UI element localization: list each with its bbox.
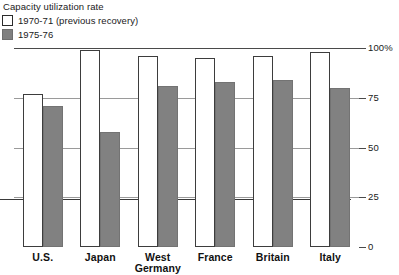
bar-curr-italy <box>330 88 350 247</box>
gridline-50 <box>14 148 359 149</box>
y-tick-label-0: 0 <box>368 242 373 252</box>
plot-area <box>14 48 359 247</box>
bar-prev-france <box>195 58 215 247</box>
x-axis-label-france: France <box>187 252 245 263</box>
x-axis-label-west-germany: WestGermany <box>129 252 187 274</box>
bar-curr-west-germany <box>158 86 178 247</box>
y-tick-50 <box>359 148 366 149</box>
bar-curr-france <box>215 82 235 247</box>
bar-prev-u-s <box>23 94 43 247</box>
gridline-100 <box>14 48 359 49</box>
y-tick-75 <box>359 98 366 99</box>
x-axis-label-italy: Italy <box>302 252 360 263</box>
legend-title: Capacity utilization rate <box>3 1 202 12</box>
chart-legend: Capacity utilization rate 1970-71 (previ… <box>2 1 202 42</box>
y-tick-100 <box>359 48 366 49</box>
y-tick-label-50: 50 <box>368 143 379 153</box>
legend-item-1975-76: 1975-76 <box>2 28 202 41</box>
capacity-utilization-bar-chart: Capacity utilization rate 1970-71 (previ… <box>0 0 399 275</box>
bar-prev-west-germany <box>138 56 158 247</box>
legend-label-1975-76: 1975-76 <box>18 29 53 40</box>
y-tick-label-25: 25 <box>368 192 379 202</box>
x-axis-label-u-s: U.S. <box>14 252 72 263</box>
bar-prev-japan <box>80 50 100 247</box>
legend-swatch-gray-icon <box>2 29 13 40</box>
x-axis-label-britain: Britain <box>244 252 302 263</box>
legend-item-1970-71: 1970-71 (previous recovery) <box>2 14 202 27</box>
bar-curr-u-s <box>43 106 63 247</box>
y-tick-label-100: 100% <box>368 43 393 53</box>
y-tick-label-75: 75 <box>368 93 379 103</box>
legend-label-1970-71: 1970-71 (previous recovery) <box>18 15 138 26</box>
x-axis-label-japan: Japan <box>72 252 130 263</box>
y-tick-25 <box>359 197 366 198</box>
legend-swatch-white-icon <box>2 15 13 26</box>
y-tick-0 <box>359 247 366 248</box>
bar-prev-italy <box>310 52 330 247</box>
bar-curr-britain <box>273 80 293 247</box>
bar-prev-britain <box>253 56 273 247</box>
bar-curr-japan <box>100 132 120 247</box>
gridline-75 <box>14 98 359 99</box>
